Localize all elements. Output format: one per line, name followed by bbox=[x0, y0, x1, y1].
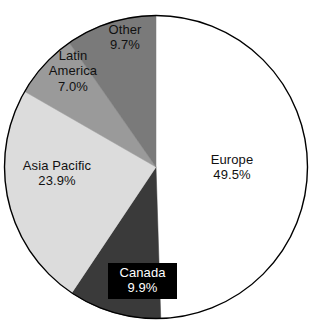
pie-label-other-name: Other bbox=[88, 22, 162, 37]
pie-label-europe: Europe 49.5% bbox=[190, 152, 274, 183]
pie-label-asia-pacific: Asia Pacific 23.9% bbox=[4, 158, 110, 189]
pie-label-canada-value: 9.9% bbox=[113, 280, 172, 295]
pie-label-europe-name: Europe bbox=[190, 152, 274, 167]
pie-label-latin-america-name-line2: America bbox=[32, 63, 114, 78]
pie-label-asia-pacific-name: Asia Pacific bbox=[4, 158, 110, 173]
pie-label-latin-america-name-line1: Latin bbox=[32, 48, 114, 63]
pie-label-asia-pacific-value: 23.9% bbox=[4, 173, 110, 188]
pie-label-europe-value: 49.5% bbox=[190, 167, 274, 182]
pie-label-latin-america: Latin America 7.0% bbox=[32, 48, 114, 94]
pie-label-canada-name: Canada bbox=[113, 265, 172, 280]
pie-chart: Europe 49.5% Other 9.7% Latin America 7.… bbox=[0, 0, 318, 334]
pie-label-canada: Canada 9.9% bbox=[108, 263, 177, 299]
pie-label-latin-america-value: 7.0% bbox=[32, 79, 114, 94]
